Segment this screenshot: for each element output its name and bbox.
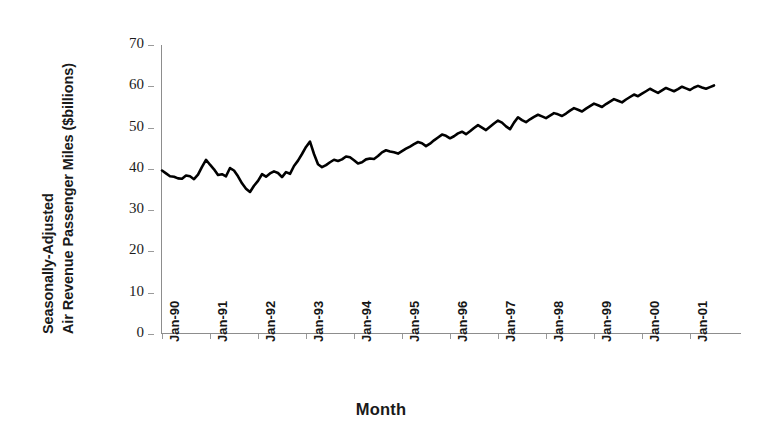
y-axis-title-line-1: Seasonally-Adjusted <box>40 193 56 334</box>
y-axis-tick-label: 40 <box>104 159 144 176</box>
x-axis-tick <box>690 334 691 339</box>
x-axis-tick-label: Jan-97 <box>503 301 518 342</box>
x-axis-tick <box>450 334 451 339</box>
x-axis-tick <box>546 334 547 339</box>
x-axis-tick-label: Jan-96 <box>455 301 470 342</box>
x-axis-tick-label: Jan-93 <box>311 301 326 342</box>
chart-container: Seasonally-Adjusted Air Revenue Passenge… <box>0 0 762 443</box>
x-axis-tick <box>306 334 307 339</box>
y-axis-tick <box>148 210 154 211</box>
plot-area <box>162 45 740 334</box>
x-axis-tick-label: Jan-00 <box>647 301 662 342</box>
x-axis-tick <box>162 334 163 339</box>
x-axis-tick-label: Jan-95 <box>407 301 422 342</box>
y-axis-tick <box>148 169 154 170</box>
x-axis-tick <box>210 334 211 339</box>
y-axis-title-line-2: Air Revenue Passenger Miles ($billions) <box>60 63 76 334</box>
y-axis-tick-label: 0 <box>104 324 144 341</box>
y-axis-tick <box>148 251 154 252</box>
y-axis-tick-label: 30 <box>104 200 144 217</box>
y-axis-tick <box>148 293 154 294</box>
y-axis-tick <box>148 334 154 335</box>
x-axis-tick-label: Jan-94 <box>359 301 374 342</box>
x-axis-tick <box>258 334 259 339</box>
x-axis-tick <box>594 334 595 339</box>
series-polyline <box>162 85 714 192</box>
y-axis-tick-label: 10 <box>104 283 144 300</box>
data-series-line <box>162 45 740 334</box>
x-axis-tick-label: Jan-98 <box>551 301 566 342</box>
x-axis-title: Month <box>0 400 762 419</box>
y-axis-tick <box>148 45 154 46</box>
x-axis-tick-label: Jan-92 <box>263 301 278 342</box>
x-axis-tick-label: Jan-99 <box>599 301 614 342</box>
y-axis-tick-label: 50 <box>104 118 144 135</box>
x-axis-tick-label: Jan-01 <box>695 301 710 342</box>
y-axis-tick-label: 60 <box>104 76 144 93</box>
y-axis-tick <box>148 86 154 87</box>
y-axis-tick-label: 70 <box>104 35 144 52</box>
y-axis-title: Seasonally-Adjusted Air Revenue Passenge… <box>40 18 100 338</box>
x-axis-tick <box>354 334 355 339</box>
x-axis-tick-label: Jan-91 <box>215 301 230 342</box>
x-axis-tick <box>642 334 643 339</box>
y-axis-tick-label: 20 <box>104 241 144 258</box>
y-axis-tick <box>148 128 154 129</box>
x-axis-tick-label: Jan-90 <box>167 301 182 342</box>
x-axis-tick <box>498 334 499 339</box>
x-axis-tick <box>402 334 403 339</box>
